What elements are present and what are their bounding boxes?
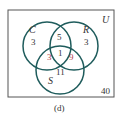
venn-diagram: U C 3 R 3 5 3 1 9 11 S 40 (d)	[0, 0, 121, 116]
c-s-count: 3	[47, 52, 52, 62]
outside-count: 40	[101, 86, 111, 96]
s-only-count: 11	[56, 67, 65, 77]
set-label-c: C	[29, 24, 36, 35]
universe-label: U	[102, 14, 110, 25]
r-only-count: 3	[84, 37, 89, 47]
c-only-count: 3	[31, 37, 36, 47]
set-label-r: R	[82, 24, 89, 35]
caption: (d)	[54, 103, 65, 113]
c-r-count: 5	[57, 32, 62, 42]
r-s-count: 9	[69, 52, 74, 62]
c-r-s-count: 1	[58, 48, 63, 58]
set-label-s: S	[48, 75, 53, 86]
